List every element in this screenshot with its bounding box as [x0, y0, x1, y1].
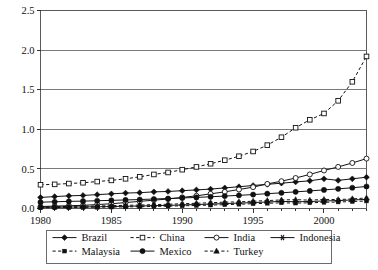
marker-small-square — [63, 249, 67, 253]
marker-circle — [307, 188, 312, 193]
marker-open-square — [265, 143, 270, 148]
marker-open-square — [123, 177, 128, 182]
marker-circle — [321, 187, 326, 192]
marker-open-square — [336, 98, 341, 103]
marker-circle — [222, 193, 227, 198]
y-tick-label: 0.0 — [21, 203, 34, 214]
marker-open-square — [38, 182, 43, 187]
legend-label: Brazil — [82, 232, 108, 243]
marker-open-square — [166, 170, 171, 175]
marker-circle — [265, 191, 270, 196]
marker-open-square — [350, 79, 355, 84]
marker-circle — [180, 195, 185, 200]
marker-open-square — [81, 180, 86, 185]
chart-background — [0, 0, 378, 270]
marker-open-circle — [307, 172, 312, 177]
marker-open-circle — [321, 168, 326, 173]
legend-label: India — [234, 232, 256, 243]
legend-label: Malaysia — [82, 246, 121, 257]
y-tick-label: 0.5 — [21, 164, 34, 175]
marker-circle — [336, 186, 341, 191]
marker-open-circle — [293, 176, 298, 181]
chart-canvas: 0.00.51.01.52.02.5 19801985199019952000 … — [0, 0, 378, 270]
legend-label: Mexico — [160, 246, 192, 257]
legend-label: Indonesia — [300, 232, 341, 243]
marker-open-square — [251, 149, 256, 154]
line-chart: 0.00.51.01.52.02.5 19801985199019952000 … — [0, 0, 378, 270]
marker-circle — [251, 192, 256, 197]
marker-open-square — [52, 182, 57, 187]
marker-circle — [293, 189, 298, 194]
marker-circle — [350, 185, 355, 190]
marker-open-square — [364, 54, 369, 59]
y-tick-label: 2.5 — [21, 5, 34, 16]
marker-open-square — [308, 117, 313, 122]
marker-circle — [123, 197, 128, 202]
marker-open-circle — [214, 235, 219, 240]
marker-open-square — [208, 161, 213, 166]
marker-open-square — [67, 181, 72, 186]
marker-circle — [364, 184, 369, 189]
marker-open-square — [137, 175, 142, 180]
x-tick-label: 1985 — [101, 215, 122, 226]
marker-circle — [137, 197, 142, 202]
marker-open-circle — [364, 156, 369, 161]
marker-open-square — [222, 158, 227, 163]
y-tick-label: 1.0 — [21, 124, 34, 135]
marker-open-circle — [251, 185, 256, 190]
marker-open-square — [95, 179, 100, 184]
marker-circle — [279, 190, 284, 195]
marker-circle — [151, 196, 156, 201]
x-tick-label: 2000 — [313, 215, 334, 226]
marker-open-square — [109, 178, 114, 183]
marker-open-square — [237, 154, 242, 159]
legend-label: Turkey — [234, 246, 265, 257]
chart-legend: BrazilChinaIndiaIndonesiaMalaysiaMexicoT… — [47, 231, 341, 264]
marker-open-circle — [279, 179, 284, 184]
marker-open-circle — [236, 187, 241, 192]
marker-open-square — [194, 165, 199, 170]
marker-circle — [208, 194, 213, 199]
x-tick-label: 1980 — [30, 215, 51, 226]
marker-open-circle — [336, 164, 341, 169]
x-tick-label: 1995 — [243, 215, 264, 226]
marker-circle — [194, 195, 199, 200]
marker-open-square — [322, 111, 327, 116]
legend-label: China — [160, 232, 185, 243]
marker-circle — [140, 249, 145, 254]
marker-open-square — [140, 235, 145, 240]
marker-open-square — [279, 135, 284, 140]
marker-open-square — [180, 167, 185, 172]
marker-open-square — [293, 125, 298, 130]
y-tick-label: 1.5 — [21, 84, 34, 95]
x-tick-label: 1990 — [172, 215, 193, 226]
marker-circle — [165, 196, 170, 201]
marker-open-circle — [265, 181, 270, 186]
marker-open-square — [152, 172, 157, 177]
marker-circle — [236, 193, 241, 198]
marker-open-circle — [350, 160, 355, 165]
y-tick-label: 2.0 — [21, 45, 34, 56]
